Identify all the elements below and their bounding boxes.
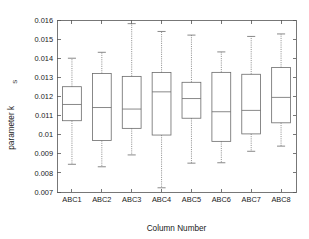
- x-tick-label: ABC8: [271, 195, 290, 204]
- y-tick-label: 0.009: [35, 149, 54, 158]
- box-iqr: [212, 72, 231, 141]
- y-axis-title-subscript: S: [12, 80, 18, 84]
- plot-frame: [57, 20, 296, 192]
- box-plot-item: [212, 52, 231, 163]
- box-iqr: [152, 73, 171, 135]
- x-tick-label: ABC5: [182, 195, 201, 204]
- boxplot-canvas: 0.0160.0150.0140.0130.0120.0110.010.0090…: [0, 0, 309, 239]
- y-tick-label: 0.011: [35, 111, 53, 120]
- y-tick-label: 0.01: [39, 130, 53, 139]
- box-iqr: [182, 82, 201, 118]
- box-plot-item: [242, 36, 261, 151]
- y-axis-ticks: 0.0160.0150.0140.0130.0120.0110.010.0090…: [35, 16, 297, 197]
- box-plot-item: [63, 58, 82, 164]
- box-series: [63, 24, 291, 188]
- y-axis-title: parameter kS: [7, 80, 18, 150]
- box-iqr: [63, 87, 82, 121]
- box-plot-item: [152, 31, 171, 187]
- y-tick-label: 0.015: [35, 35, 54, 44]
- x-tick-label: ABC7: [242, 195, 261, 204]
- y-tick-label: 0.016: [35, 16, 54, 25]
- x-tick-label: ABC3: [122, 195, 141, 204]
- box-plot-item: [272, 34, 291, 146]
- x-tick-label: ABC4: [152, 195, 171, 204]
- y-axis-title-main: parameter k: [7, 105, 16, 150]
- y-tick-label: 0.012: [35, 92, 54, 101]
- box-iqr: [122, 76, 141, 128]
- x-axis-ticks: ABC1ABC2ABC3ABC4ABC5ABC6ABC7ABC8: [62, 20, 290, 204]
- x-tick-label: ABC2: [92, 195, 111, 204]
- box-iqr: [92, 74, 111, 141]
- y-tick-label: 0.014: [35, 54, 54, 63]
- x-tick-label: ABC1: [62, 195, 81, 204]
- box-iqr: [242, 74, 261, 134]
- box-plot-item: [122, 24, 141, 155]
- x-axis-title: Column Number: [147, 224, 207, 233]
- y-tick-label: 0.008: [35, 169, 54, 178]
- y-tick-label: 0.007: [35, 188, 54, 197]
- axes-frame: [57, 20, 296, 192]
- box-plot-item: [182, 35, 201, 163]
- box-iqr: [272, 68, 291, 123]
- x-tick-label: ABC6: [212, 195, 231, 204]
- box-plot-item: [92, 52, 111, 166]
- boxplot-figure: 0.0160.0150.0140.0130.0120.0110.010.0090…: [0, 0, 309, 239]
- y-tick-label: 0.013: [35, 73, 54, 82]
